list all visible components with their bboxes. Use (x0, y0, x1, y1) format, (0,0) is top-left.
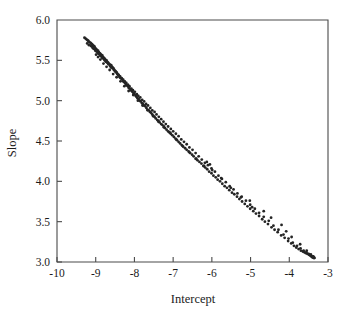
data-point (188, 151, 191, 154)
x-tick-label: -6 (207, 267, 217, 279)
data-point (206, 168, 209, 171)
data-point (224, 181, 227, 184)
data-point (133, 90, 136, 93)
data-point (251, 206, 254, 209)
data-point (123, 85, 126, 88)
data-point (236, 195, 239, 198)
data-point (264, 220, 267, 223)
data-point (261, 218, 264, 221)
data-point (157, 115, 160, 118)
data-point (285, 230, 288, 233)
data-point (119, 80, 122, 83)
data-point (155, 113, 158, 116)
y-tick-label: 5.5 (36, 54, 51, 66)
y-tick-label: 4.5 (36, 135, 51, 147)
data-point (214, 176, 217, 179)
data-point (258, 215, 261, 218)
data-point (99, 58, 102, 61)
data-point (246, 205, 249, 208)
scatter-plot-figure: -10-9-8-7-6-5-4-3 3.03.54.04.55.05.56.0 … (0, 0, 347, 309)
x-axis-title: Intercept (171, 292, 216, 306)
data-point (200, 158, 203, 161)
data-point (276, 231, 279, 234)
data-point (146, 109, 149, 112)
data-point-cloud (83, 36, 316, 259)
data-point (236, 192, 239, 195)
data-point (181, 144, 184, 147)
data-point (267, 219, 270, 222)
data-point (262, 215, 265, 218)
data-point (169, 127, 172, 130)
data-point (209, 163, 212, 166)
data-point (167, 125, 170, 128)
data-point (128, 85, 131, 88)
x-axis-tick-marks (57, 257, 328, 262)
data-point (272, 224, 275, 227)
data-point (291, 241, 294, 244)
data-point (180, 138, 183, 141)
x-tick-label: -3 (323, 267, 333, 279)
data-point (283, 236, 286, 239)
data-point (228, 189, 231, 192)
data-point (262, 210, 265, 213)
data-point (255, 212, 258, 215)
data-point (312, 255, 315, 258)
plot-canvas: -10-9-8-7-6-5-4-3 3.03.54.04.55.05.56.0 … (0, 0, 347, 309)
data-point (143, 100, 146, 103)
data-point (162, 126, 165, 129)
data-point (141, 104, 144, 107)
data-point (200, 162, 203, 165)
data-point (112, 73, 115, 76)
x-tick-label: -9 (91, 267, 101, 279)
data-point (153, 111, 156, 114)
data-point (249, 203, 252, 206)
data-point (280, 223, 283, 226)
data-point (273, 228, 276, 231)
data-point (102, 62, 105, 65)
y-axis-tick-labels: 3.03.54.04.55.05.56.0 (36, 14, 51, 268)
data-point (162, 120, 165, 123)
data-point (164, 123, 167, 126)
data-point (293, 244, 296, 247)
data-point (310, 253, 313, 256)
y-tick-label: 3.5 (36, 216, 51, 228)
data-point (137, 99, 140, 102)
y-tick-label: 6.0 (36, 14, 51, 26)
data-point (282, 233, 285, 236)
data-point (270, 216, 273, 219)
data-point (177, 135, 180, 138)
data-point (185, 143, 188, 146)
data-point (149, 107, 152, 110)
data-point (214, 170, 217, 173)
data-point (217, 174, 220, 177)
data-point (290, 236, 293, 239)
data-point (299, 247, 302, 250)
y-axis-title: Slope (5, 128, 19, 157)
data-point (210, 172, 213, 175)
data-point (195, 157, 198, 160)
y-tick-label: 4.0 (36, 175, 51, 187)
data-point (191, 148, 194, 151)
data-point (97, 56, 100, 59)
data-point (203, 165, 206, 168)
data-point (197, 155, 200, 158)
data-point (151, 109, 154, 112)
data-point (299, 243, 302, 246)
data-point (115, 76, 118, 79)
data-point (229, 186, 232, 189)
data-point (175, 138, 178, 141)
data-point (87, 44, 90, 47)
data-point (160, 118, 163, 121)
data-point (157, 120, 160, 123)
data-point (233, 193, 236, 196)
data-point (239, 196, 242, 199)
data-point (232, 188, 235, 191)
data-point (221, 182, 224, 185)
x-axis-tick-labels: -10-9-8-7-6-5-4-3 (49, 267, 333, 279)
data-point (220, 177, 223, 180)
data-point (183, 140, 186, 143)
data-point (105, 65, 108, 68)
y-tick-label: 5.0 (36, 95, 51, 107)
data-point (219, 180, 222, 183)
data-point (277, 228, 280, 231)
